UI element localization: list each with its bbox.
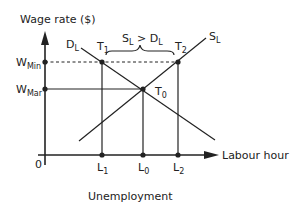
t0-point — [140, 86, 145, 91]
l2-point — [175, 152, 180, 157]
y-axis-arrow-icon — [41, 31, 49, 45]
caption: Unemployment — [88, 190, 173, 203]
surplus-label: SL > DL — [122, 32, 163, 47]
surplus-brace — [106, 45, 174, 55]
origin-label: 0 — [35, 158, 42, 171]
l0-label: L0 — [138, 161, 149, 176]
labour-market-diagram: Wage rate ($) Labour hour 0 Unemployment… — [0, 0, 295, 213]
x-axis-arrow-icon — [204, 151, 219, 159]
w-min-point — [42, 59, 47, 64]
l2-label: L2 — [173, 161, 184, 176]
w-mar-label: WMar — [16, 83, 43, 98]
l0-point — [140, 152, 145, 157]
t2-point — [175, 59, 180, 64]
t1-point — [99, 59, 104, 64]
supply-label: SL — [209, 30, 221, 45]
w-mar-point — [42, 86, 47, 91]
x-axis-label: Labour hour — [222, 149, 289, 162]
y-axis-label: Wage rate ($) — [20, 13, 96, 26]
t2-label: T2 — [174, 40, 187, 55]
l1-label: L1 — [97, 161, 108, 176]
t1-label: T1 — [96, 40, 109, 55]
demand-label: DL — [66, 38, 79, 53]
t0-label: T0 — [154, 85, 167, 100]
w-min-label: WMin — [16, 56, 41, 71]
l1-point — [99, 152, 104, 157]
